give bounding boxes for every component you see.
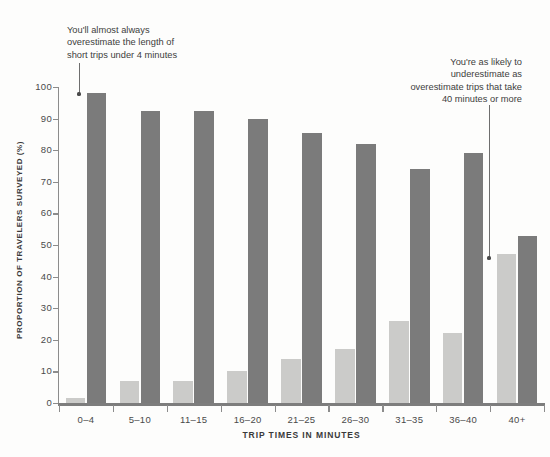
bar-group xyxy=(490,87,544,403)
y-tick-label: 90 xyxy=(22,113,52,125)
y-tick-label-text: 60 xyxy=(26,207,52,218)
bar-group xyxy=(328,87,382,403)
y-tick-mark xyxy=(53,277,58,278)
y-tick-label: 80 xyxy=(22,144,52,156)
bar-underestimate xyxy=(497,254,517,403)
x-axis-title: TRIP TIMES IN MINUTES xyxy=(59,430,544,440)
y-tick-label: 20 xyxy=(22,334,52,346)
bar-overestimate xyxy=(141,111,161,403)
y-tick-mark xyxy=(53,340,58,341)
bar-group xyxy=(221,87,275,403)
y-tick-mark xyxy=(53,371,58,372)
y-tick-label-text: 100 xyxy=(26,81,52,92)
annotation-left-leader-line xyxy=(79,63,80,94)
x-tick-mark xyxy=(382,405,383,412)
y-tick-label-text: 10 xyxy=(26,365,52,376)
bar-group xyxy=(275,87,329,403)
y-tick-label-text: 40 xyxy=(26,271,52,282)
y-tick-label: 0 xyxy=(22,397,52,409)
bar-group xyxy=(167,87,221,403)
y-tick-mark xyxy=(53,182,58,183)
y-tick-label: 50 xyxy=(22,239,52,251)
y-tick-label: 40 xyxy=(22,271,52,283)
bar-group xyxy=(382,87,436,403)
bar-underestimate xyxy=(281,359,301,403)
x-tick-mark xyxy=(221,405,222,412)
bar-overestimate xyxy=(410,169,430,403)
bar-overestimate xyxy=(356,144,376,403)
y-tick-label: 10 xyxy=(22,365,52,377)
annotation-right-leader-line xyxy=(489,105,490,258)
y-tick-label-text: 80 xyxy=(26,144,52,155)
bar-underestimate xyxy=(335,349,355,403)
bar-overestimate xyxy=(194,111,214,403)
y-tick-label-text: 70 xyxy=(26,176,52,187)
bar-chart: PROPORTION OF TRAVELERS SURVEYED (%) 010… xyxy=(0,0,550,457)
x-tick-label: 40+ xyxy=(482,414,550,425)
annotation-left-leader-dot xyxy=(77,92,80,95)
bar-overestimate xyxy=(302,133,322,403)
y-tick-label-text: 0 xyxy=(26,397,52,408)
bar-group xyxy=(436,87,490,403)
x-tick-mark xyxy=(436,405,437,412)
annotation-left-text: You'll almost always overestimate the le… xyxy=(67,24,257,61)
bar-overestimate xyxy=(87,93,107,403)
y-tick-label-text: 30 xyxy=(26,302,52,313)
x-axis-line xyxy=(58,403,545,406)
bar-underestimate xyxy=(120,381,140,403)
y-tick-label: 60 xyxy=(22,207,52,219)
x-tick-mark xyxy=(59,405,60,412)
y-tick-label: 70 xyxy=(22,176,52,188)
bar-group xyxy=(59,87,113,403)
annotation-right-leader-dot xyxy=(487,256,490,259)
x-tick-mark xyxy=(275,405,276,412)
x-tick-mark xyxy=(328,405,329,412)
plot-area xyxy=(59,87,544,403)
bar-underestimate xyxy=(227,371,247,403)
y-tick-label-text: 50 xyxy=(26,239,52,250)
y-tick-label: 30 xyxy=(22,302,52,314)
bar-overestimate xyxy=(518,236,538,403)
x-tick-mark xyxy=(113,405,114,412)
y-tick-label-text: 90 xyxy=(26,113,52,124)
y-tick-label: 100 xyxy=(22,81,52,93)
bar-group xyxy=(113,87,167,403)
bar-underestimate xyxy=(389,321,409,403)
x-tick-mark xyxy=(544,405,545,412)
bar-underestimate xyxy=(173,381,193,403)
y-tick-mark xyxy=(53,119,58,120)
y-tick-mark xyxy=(53,87,58,88)
annotation-right-text: You're as likely to underestimate as ove… xyxy=(326,56,522,106)
y-tick-mark xyxy=(53,213,58,214)
x-tick-mark xyxy=(167,405,168,412)
y-tick-label-text: 20 xyxy=(26,334,52,345)
bar-overestimate xyxy=(248,119,268,403)
bar-underestimate xyxy=(443,333,463,403)
y-tick-mark xyxy=(53,308,58,309)
bar-overestimate xyxy=(464,153,484,403)
y-tick-mark xyxy=(53,150,58,151)
y-tick-mark xyxy=(53,245,58,246)
x-tick-mark xyxy=(490,405,491,412)
